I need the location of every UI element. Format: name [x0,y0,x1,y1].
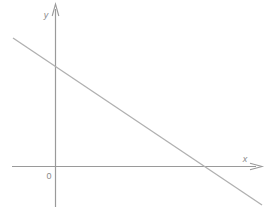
x-axis-label: x [242,154,248,164]
plot-svg: y x 0 [0,0,268,220]
origin-label: 0 [46,171,51,181]
coordinate-plane-figure: y x 0 [0,0,268,220]
y-axis-label: y [43,10,49,20]
